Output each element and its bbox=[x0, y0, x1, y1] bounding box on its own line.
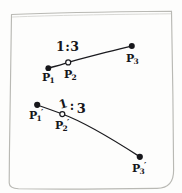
diagram-svg bbox=[0, 0, 182, 193]
point-p1-prime-marker bbox=[34, 102, 40, 108]
point-label-p1-sub: 1 bbox=[50, 76, 55, 85]
point-label-p3-prime-letter: P bbox=[132, 162, 140, 175]
point-label-p2-prime-letter: P bbox=[55, 119, 63, 132]
point-label-p3-sub: 3 bbox=[134, 57, 139, 66]
sketch-canvas: 1:3 P1 P2 P3 1:3 P1′ P2′ P3′ bbox=[0, 0, 182, 193]
paper-frame-shadow bbox=[13, 14, 171, 17]
ratio-label-upper: 1:3 bbox=[56, 41, 80, 54]
point-label-p2-sub: 2 bbox=[72, 73, 77, 82]
ratio-lower-numerator: 1 bbox=[58, 97, 70, 111]
point-p3-prime-marker bbox=[137, 154, 143, 160]
ratio-lower-denominator: 3 bbox=[77, 102, 87, 115]
point-label-p2-prime-mark: ′ bbox=[67, 118, 69, 128]
point-label-p2-prime: P2′ bbox=[55, 120, 70, 131]
ratio-label-lower: 1:3 bbox=[59, 99, 82, 112]
ratio-lower-colon: : bbox=[70, 100, 75, 112]
point-p2-marker bbox=[66, 60, 71, 65]
point-label-p1-prime: P1′ bbox=[29, 110, 44, 121]
point-p3-marker bbox=[129, 43, 135, 49]
point-label-p3-letter: P bbox=[126, 52, 134, 65]
point-label-p1-letter: P bbox=[42, 71, 50, 84]
point-label-p1-prime-mark: ′ bbox=[41, 108, 43, 118]
paper-frame bbox=[9, 11, 173, 189]
point-label-p2-letter: P bbox=[64, 68, 72, 81]
point-label-p1-prime-letter: P bbox=[29, 109, 37, 122]
point-label-p1: P1 bbox=[42, 72, 55, 83]
point-p2-prime-marker bbox=[60, 112, 65, 117]
lower-segment-line bbox=[37, 105, 139, 157]
point-label-p3: P3 bbox=[126, 53, 139, 64]
point-label-p3-prime: P3′ bbox=[132, 163, 147, 174]
point-label-p2: P2 bbox=[64, 69, 77, 80]
point-label-p3-prime-mark: ′ bbox=[144, 161, 146, 171]
